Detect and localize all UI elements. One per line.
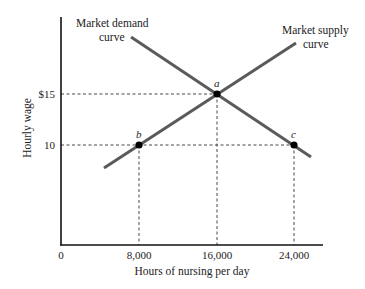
- chart-svg: a b c Market demand curve Market supply …: [0, 0, 365, 289]
- y-tick-15: $15: [39, 88, 56, 100]
- point-c-label: c: [291, 128, 296, 140]
- point-b-label: b: [136, 128, 142, 140]
- supply-curve: [104, 43, 296, 168]
- point-a-marker: [213, 90, 220, 97]
- x-axis-title: Hours of nursing per day: [135, 265, 250, 278]
- x-tick-16000: 16,000: [202, 249, 233, 261]
- y-axis-title: Hourly wage: [21, 98, 34, 158]
- point-a-label: a: [214, 77, 220, 89]
- point-b-marker: [135, 141, 142, 148]
- demand-label-line1: Market demand: [76, 17, 149, 29]
- x-tick-8000: 8,000: [127, 249, 152, 261]
- x-tick-0: 0: [58, 249, 64, 261]
- y-tick-10: 10: [44, 139, 56, 151]
- supply-label-line1: Market supply: [282, 24, 349, 37]
- demand-label-line2: curve: [99, 31, 125, 43]
- x-tick-24000: 24,000: [279, 249, 310, 261]
- demand-curve: [131, 37, 311, 157]
- reference-lines: [61, 94, 294, 245]
- supply-label-line2: curve: [303, 38, 329, 50]
- labor-market-chart: a b c Market demand curve Market supply …: [0, 0, 365, 289]
- point-c-marker: [290, 141, 297, 148]
